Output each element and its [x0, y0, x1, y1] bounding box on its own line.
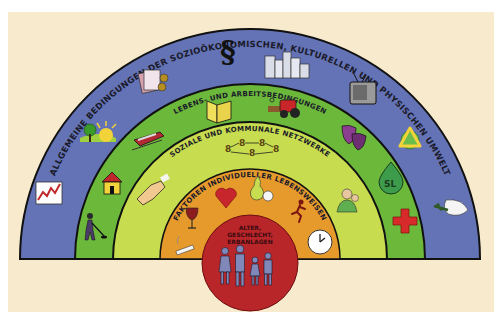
svg-text:SL: SL: [384, 179, 396, 189]
health-determinants-rainbow: ALLGEMEINE BEDINGUNGEN DER SOZIOÖKONOMIS…: [0, 0, 502, 323]
rising-chart-icon: [36, 182, 62, 204]
svg-text:§: §: [220, 34, 236, 69]
svg-text:8: 8: [225, 144, 231, 154]
core-label-line-1: ALTER,: [239, 224, 262, 231]
clock-icon: [308, 230, 332, 254]
book-icon: [207, 101, 231, 123]
core-label-line-3: ERBANLAGEN: [227, 238, 272, 245]
svg-text:8: 8: [239, 138, 245, 148]
core-age-sex-heredity: ALTER, GESCHLECHT, ERBANLAGEN: [202, 215, 298, 311]
core-label-line-2: GESCHLECHT,: [227, 231, 273, 238]
svg-text:8: 8: [273, 144, 279, 154]
svg-text:8: 8: [249, 148, 255, 158]
svg-text:8: 8: [259, 138, 265, 148]
paragraph-law-icon: §: [220, 34, 236, 69]
